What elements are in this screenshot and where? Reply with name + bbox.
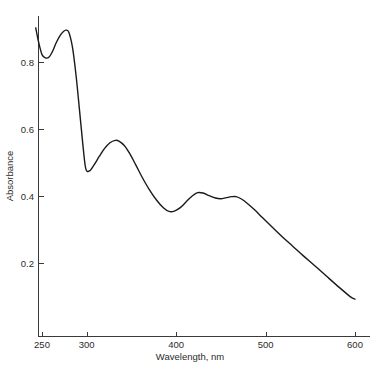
absorbance-spectrum-figure: 0.20.40.60.8 250300400500600 Wavelength,… xyxy=(0,0,377,369)
x-tick-label: 500 xyxy=(258,339,274,350)
y-axis-title: Absorbance xyxy=(4,151,15,202)
y-tick-label: 0.8 xyxy=(21,57,34,68)
y-tick-label: 0.4 xyxy=(21,191,34,202)
x-axis-ticks: 250300400500600 xyxy=(34,332,363,350)
y-tick-label: 0.6 xyxy=(21,124,34,135)
y-axis-ticks: 0.20.40.60.8 xyxy=(21,57,44,269)
x-tick-label: 400 xyxy=(168,339,184,350)
x-tick-label: 300 xyxy=(79,339,95,350)
axes-group xyxy=(39,16,371,337)
x-axis-title: Wavelength, nm xyxy=(156,351,224,362)
y-tick-label: 0.2 xyxy=(21,258,34,269)
chart-canvas: 0.20.40.60.8 250300400500600 Wavelength,… xyxy=(0,0,377,369)
x-tick-label: 250 xyxy=(34,339,50,350)
absorbance-curve xyxy=(36,28,355,299)
x-tick-label: 600 xyxy=(347,339,363,350)
